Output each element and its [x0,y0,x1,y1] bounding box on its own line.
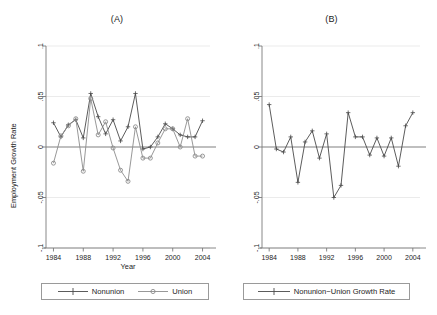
panel-a-plot: -.1-.050.05.1198419881992199620002004 [0,0,218,280]
legend-key-nonunion-plus-icon [58,287,88,296]
legend-label-diff: Nonunion−Union Growth Rate [294,288,396,296]
y-tick-label: .1 [37,43,44,49]
x-tick-label: 1996 [348,254,364,261]
legend-label-nonunion: Nonunion [92,288,125,296]
x-tick-label: 1992 [105,254,121,261]
panel-a-xlabel: Year [46,262,210,271]
legend-key-union-circle-icon [138,287,168,296]
x-tick-label: 2000 [376,254,392,261]
series-line-union [53,99,202,182]
y-tick-label: 0 [37,145,44,149]
x-tick-label: 1996 [135,254,151,261]
panel-a: (A) -.1-.050.05.119841988199219962000200… [0,0,218,315]
figure-root: (A) -.1-.050.05.119841988199219962000200… [0,0,437,315]
y-tick-label: .1 [253,43,260,49]
legend-item-union: Union [138,287,192,296]
x-tick-label: 1984 [46,254,62,261]
legend-item-nonunion-minus-union: Nonunion−Union Growth Rate [258,287,396,296]
y-tick-label: -.1 [253,244,260,252]
panel-b: (B) -.1-.050.05.119841988199219962000200… [218,0,437,315]
x-tick-label: 1992 [319,254,335,261]
x-tick-label: 1988 [75,254,91,261]
legend-panel-a: Nonunion Union [41,283,209,300]
y-tick-label: -.05 [253,191,260,203]
legend-item-nonunion: Nonunion [58,287,125,296]
y-tick-label: 0 [253,145,260,149]
x-tick-label: 2004 [405,254,421,261]
panel-a-ylabel: Employment Growth Rate [9,123,18,208]
x-tick-label: 1984 [261,254,277,261]
y-tick-label: -.1 [37,244,44,252]
legend-label-union: Union [172,288,192,296]
legend-panel-b: Nonunion−Union Growth Rate [243,283,410,300]
legend-key-diff-plus-icon [258,287,290,296]
panel-b-plot: -.1-.050.05.1198419881992199620002004 [218,0,437,280]
y-tick-label: .05 [253,92,260,102]
y-tick-label: .05 [37,92,44,102]
y-tick-label: -.05 [37,191,44,203]
x-tick-label: 1988 [290,254,306,261]
x-tick-label: 2004 [195,254,211,261]
x-tick-label: 2000 [165,254,181,261]
